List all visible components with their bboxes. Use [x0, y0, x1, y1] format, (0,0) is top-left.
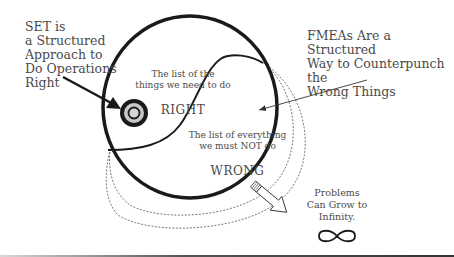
wrong-zone-description: The list of everything we must NOT do — [175, 130, 300, 152]
set-callout-text: SET is a Structured Approach to Do Opera… — [25, 20, 117, 90]
diagram-canvas: SET is a Structured Approach to Do Opera… — [0, 0, 454, 257]
right-zone-keyword: RIGHT — [118, 102, 248, 118]
wrong-zone-label: The list of everything we must NOT do WR… — [175, 119, 300, 190]
fmea-callout-text: FMEAs Are a Structured Way to Counterpun… — [307, 29, 454, 99]
infinity-icon — [319, 231, 355, 242]
wrong-zone-keyword: WRONG — [175, 163, 300, 179]
right-zone-description: The list of the things we need to do — [118, 69, 248, 91]
problems-callout-text: Problems Can Grow to Infinity. — [302, 187, 372, 223]
